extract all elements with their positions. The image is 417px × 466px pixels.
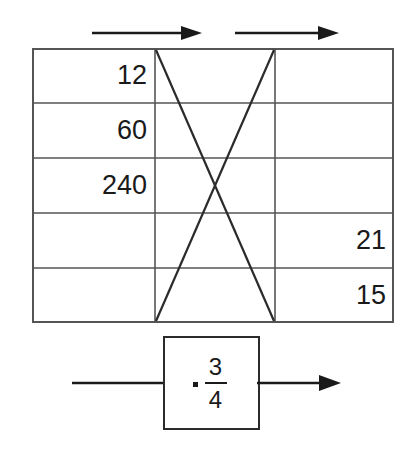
fraction-bar bbox=[205, 382, 227, 384]
table-cell-r2c1[interactable]: 60 bbox=[32, 103, 155, 158]
arrow-column-b-to-c-icon bbox=[233, 21, 339, 45]
fraction-denominator: 4 bbox=[206, 387, 225, 412]
arrow-column-a-to-b-icon bbox=[90, 21, 202, 45]
diagram-canvas: 12 60 240 21 15 3 4 bbox=[0, 0, 417, 466]
table-cell-r4c2[interactable] bbox=[155, 213, 275, 268]
multiplication-dot-icon bbox=[193, 382, 198, 387]
table-cell-r2c3[interactable] bbox=[275, 103, 394, 158]
operator-box[interactable]: 3 4 bbox=[163, 336, 260, 430]
operator-expression: 3 4 bbox=[193, 354, 227, 412]
table-cell-r5c1[interactable] bbox=[32, 268, 155, 323]
value-table: 12 60 240 21 15 bbox=[32, 48, 394, 323]
operator-output-arrow-icon bbox=[257, 370, 341, 396]
table-cell-r2c2[interactable] bbox=[155, 103, 275, 158]
table-cell-r4c1[interactable] bbox=[32, 213, 155, 268]
table-cell-r4c3[interactable]: 21 bbox=[275, 213, 394, 268]
fraction-numerator: 3 bbox=[206, 354, 225, 379]
table-cell-r3c2[interactable] bbox=[155, 158, 275, 213]
table-cell-r3c3[interactable] bbox=[275, 158, 394, 213]
table-cell-r1c2[interactable] bbox=[155, 48, 275, 103]
table-cell-r5c2[interactable] bbox=[155, 268, 275, 323]
table-cell-r5c3[interactable]: 15 bbox=[275, 268, 394, 323]
table-cell-r3c1[interactable]: 240 bbox=[32, 158, 155, 213]
fraction-three-quarters: 3 4 bbox=[205, 354, 227, 412]
table-cell-r1c1[interactable]: 12 bbox=[32, 48, 155, 103]
operator-input-wire bbox=[71, 376, 166, 390]
table-cell-r1c3[interactable] bbox=[275, 48, 394, 103]
